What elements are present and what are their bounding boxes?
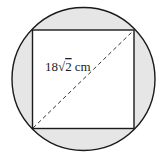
diagram-canvas: 18√2cm xyxy=(0,0,164,155)
diagonal-length-label: 18√2cm xyxy=(45,59,91,74)
geometry-figure: 18√2cm xyxy=(0,0,164,155)
